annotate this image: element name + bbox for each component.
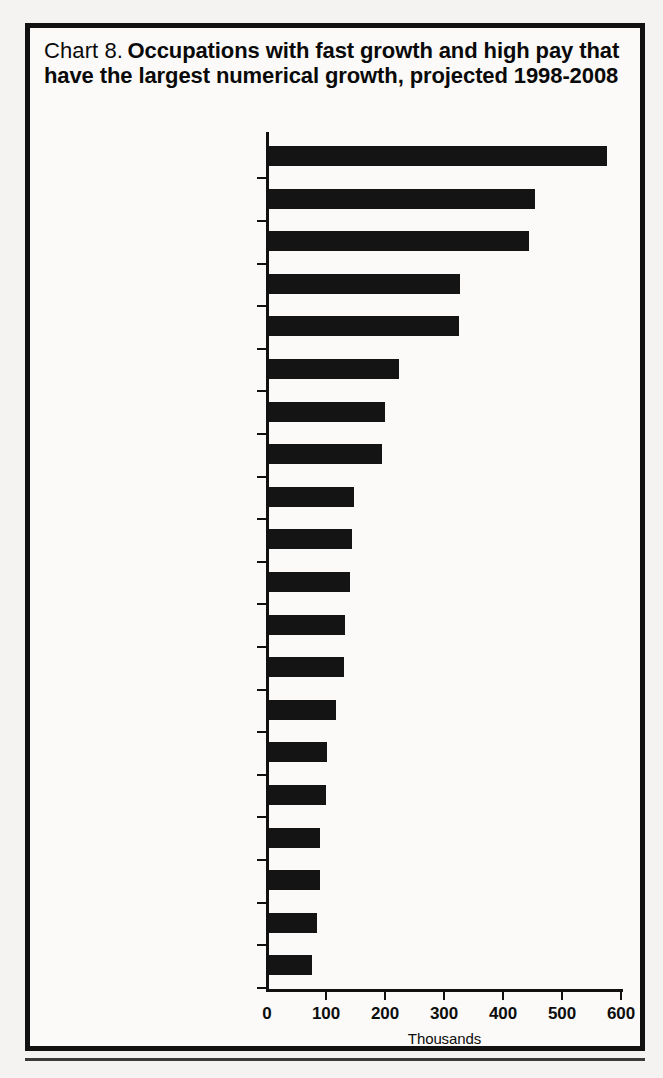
bar xyxy=(269,828,320,848)
x-axis-tick xyxy=(561,989,563,1000)
bar xyxy=(269,359,399,379)
y-axis-tick xyxy=(257,774,269,776)
bar xyxy=(269,402,385,422)
y-axis-tick xyxy=(257,902,269,904)
x-axis-tick xyxy=(443,989,445,1000)
x-axis-tick-label: 0 xyxy=(262,1004,271,1024)
y-axis-tick xyxy=(257,518,269,520)
y-axis-tick xyxy=(257,944,269,946)
y-axis-tick xyxy=(257,348,269,350)
bar xyxy=(269,955,312,975)
x-axis-tick xyxy=(325,989,327,1000)
plot-area: Computer systems analystsRegistered nurs… xyxy=(30,132,640,1032)
bar xyxy=(269,700,336,720)
chart-title-prefix: Chart 8. xyxy=(44,38,123,63)
bar xyxy=(269,444,382,464)
x-axis-tick-label: 100 xyxy=(312,1004,340,1024)
x-axis-tick-label: 300 xyxy=(430,1004,458,1024)
x-axis-tick-label: 400 xyxy=(489,1004,517,1024)
bar xyxy=(269,487,354,507)
y-axis-tick xyxy=(257,859,269,861)
bar xyxy=(269,742,327,762)
bar xyxy=(269,189,535,209)
x-axis-tick-label: 600 xyxy=(607,1004,635,1024)
y-axis-tick xyxy=(257,390,269,392)
y-axis-tick xyxy=(257,177,269,179)
bar xyxy=(269,572,350,592)
chart-title: Chart 8. Occupations with fast growth an… xyxy=(44,38,624,88)
y-axis-tick xyxy=(257,305,269,307)
bar xyxy=(269,231,529,251)
y-axis-tick xyxy=(257,816,269,818)
y-axis-tick xyxy=(257,689,269,691)
x-axis-tick xyxy=(620,989,622,1000)
y-axis-tick xyxy=(257,476,269,478)
scanned-page: Chart 8. Occupations with fast growth an… xyxy=(0,0,663,1078)
y-axis-tick xyxy=(257,646,269,648)
x-axis-title: Thousands xyxy=(266,1030,623,1047)
chart-title-main: Occupations with fast growth and high pa… xyxy=(44,38,619,88)
x-axis-tick xyxy=(502,989,504,1000)
y-axis-tick xyxy=(257,220,269,222)
bar xyxy=(269,785,326,805)
bar xyxy=(269,529,352,549)
bar xyxy=(269,316,459,336)
chart-figure-inner: Chart 8. Occupations with fast growth an… xyxy=(30,28,640,1046)
bar xyxy=(269,146,607,166)
y-axis-tick xyxy=(257,731,269,733)
page-bottom-rule xyxy=(25,1058,645,1061)
bar xyxy=(269,657,344,677)
bar xyxy=(269,615,345,635)
x-axis-tick xyxy=(384,989,386,1000)
x-axis-tick xyxy=(266,978,268,992)
y-axis-tick xyxy=(257,561,269,563)
bar xyxy=(269,870,320,890)
x-axis-tick-label: 200 xyxy=(371,1004,399,1024)
chart-figure-frame: Chart 8. Occupations with fast growth an… xyxy=(25,23,645,1051)
y-axis-tick xyxy=(257,263,269,265)
bar xyxy=(269,913,317,933)
y-axis-tick xyxy=(257,433,269,435)
x-axis-tick-label: 500 xyxy=(548,1004,576,1024)
y-axis-tick xyxy=(257,603,269,605)
bar xyxy=(269,274,460,294)
